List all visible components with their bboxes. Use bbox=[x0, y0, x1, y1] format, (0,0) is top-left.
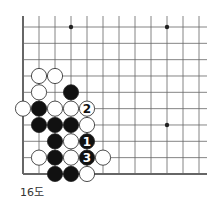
black-stone bbox=[31, 101, 46, 116]
move-number-label: 1 bbox=[83, 135, 91, 149]
white-stone bbox=[79, 117, 94, 132]
black-stone bbox=[47, 166, 62, 181]
black-stone bbox=[63, 85, 78, 100]
white-stone bbox=[31, 68, 46, 83]
black-stone bbox=[47, 117, 62, 132]
white-stone bbox=[79, 166, 94, 181]
white-stone bbox=[15, 101, 30, 116]
move-number-label: 2 bbox=[83, 102, 91, 116]
white-stone bbox=[63, 101, 78, 116]
diagram-caption: 16도 bbox=[20, 183, 44, 199]
star-point bbox=[165, 123, 169, 127]
black-stone bbox=[63, 117, 78, 132]
white-stone bbox=[95, 150, 110, 165]
black-stone bbox=[63, 166, 78, 181]
white-stone bbox=[47, 68, 62, 83]
move-number-label: 3 bbox=[83, 151, 91, 165]
black-stone bbox=[31, 117, 46, 132]
white-stone bbox=[31, 150, 46, 165]
black-stone bbox=[47, 150, 62, 165]
white-stone bbox=[31, 85, 46, 100]
black-stone bbox=[47, 134, 62, 149]
go-board: 213 bbox=[0, 0, 221, 207]
white-stone bbox=[63, 134, 78, 149]
star-point bbox=[165, 25, 169, 29]
white-stone bbox=[63, 150, 78, 165]
white-stone bbox=[47, 101, 62, 116]
star-point bbox=[69, 25, 73, 29]
